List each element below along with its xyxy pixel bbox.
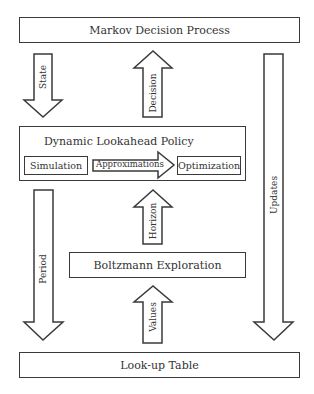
boltzmann-box: Boltzmann Exploration [69, 252, 246, 278]
simulation-box: Simulation [24, 156, 88, 175]
optimization-label: Optimization [178, 160, 240, 171]
mdp-box: Markov Decision Process [19, 17, 300, 43]
optimization-box: Optimization [177, 156, 241, 175]
boltzmann-label: Boltzmann Exploration [94, 259, 222, 272]
mdp-label: Markov Decision Process [89, 24, 230, 37]
simulation-label: Simulation [30, 160, 82, 171]
period-label: Period [38, 250, 48, 288]
decision-label: Decision [148, 73, 158, 113]
lookup-label: Look-up Table [120, 359, 198, 372]
state-label: State [38, 63, 48, 91]
approximations-label: Approximations [96, 159, 164, 169]
policy-label: Dynamic Lookahead Policy [44, 135, 194, 148]
lookup-box: Look-up Table [19, 352, 300, 378]
updates-label: Updates [269, 175, 279, 215]
values-label: Values [148, 297, 158, 337]
horizon-label: Horizon [148, 201, 158, 241]
